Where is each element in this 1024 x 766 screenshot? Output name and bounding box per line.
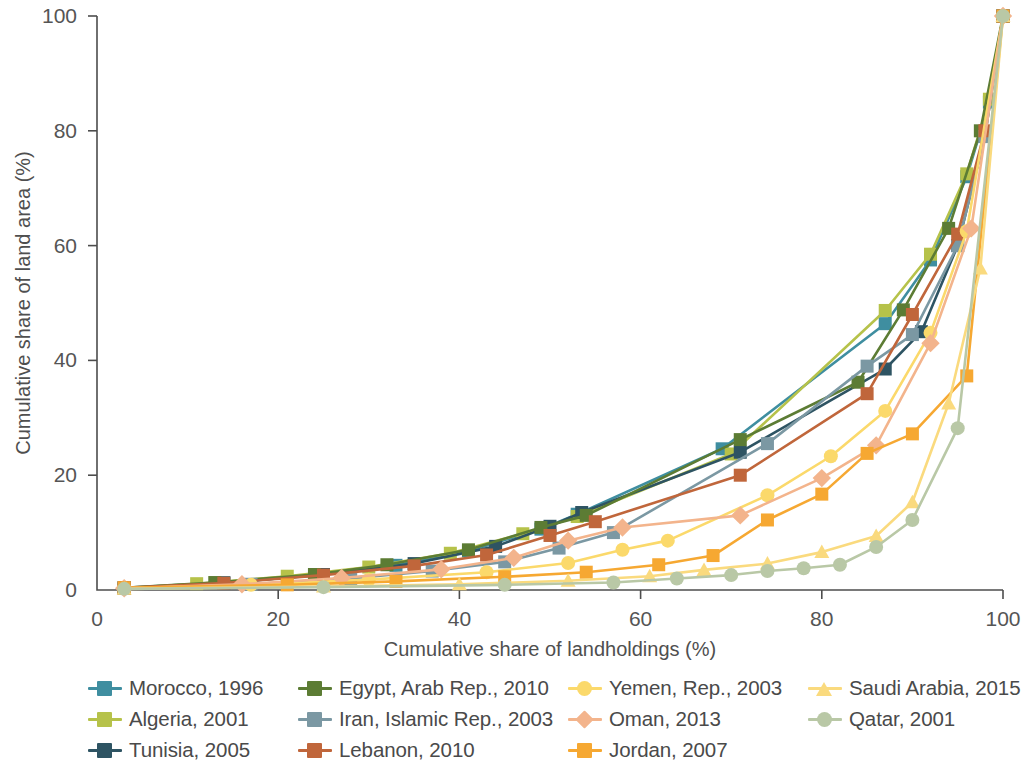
legend-swatch-square-icon <box>298 678 332 698</box>
legend-item-saudi-arabia-2015[interactable]: Saudi Arabia, 2015 <box>808 672 1008 703</box>
data-point <box>652 558 665 571</box>
data-point <box>580 566 593 579</box>
y-tick-label-100: 100 <box>42 4 77 27</box>
legend-swatch-circle-icon <box>568 678 602 698</box>
data-point <box>861 360 874 373</box>
legend-item-oman-2013[interactable]: Oman, 2013 <box>568 703 808 734</box>
series-line <box>124 16 1003 589</box>
legend-label: Oman, 2013 <box>609 707 721 731</box>
legend-label: Algeria, 2001 <box>129 707 249 731</box>
data-point <box>544 529 557 542</box>
y-tick-label-60: 60 <box>54 234 77 257</box>
legend-item-iran-islamic-rep-2003[interactable]: Iran, Islamic Rep., 2003 <box>298 703 568 734</box>
x-tick-label-60: 60 <box>629 607 652 630</box>
data-point <box>731 506 749 524</box>
series-egypt-arab-rep-2010 <box>118 10 1010 595</box>
legend-label: Tunisia, 2005 <box>129 738 250 762</box>
legend-label: Qatar, 2001 <box>849 707 955 731</box>
series-yemen-rep-2003 <box>117 9 1010 595</box>
series-layer <box>115 7 1012 598</box>
legend-swatch-square-icon <box>298 709 332 729</box>
legend-item-jordan-2007[interactable]: Jordan, 2007 <box>568 734 808 765</box>
data-point <box>734 433 747 446</box>
series-line <box>124 16 1003 588</box>
legend-marker-triangle-icon <box>816 682 832 696</box>
data-point <box>761 437 774 450</box>
legend-marker-square-icon <box>577 743 592 758</box>
data-point <box>606 576 620 590</box>
data-point <box>462 543 475 556</box>
data-point <box>905 495 920 509</box>
data-point <box>861 387 874 400</box>
legend-swatch-diamond-icon <box>568 709 602 729</box>
data-point <box>670 572 684 586</box>
x-tick-label-40: 40 <box>448 607 471 630</box>
legend-item-algeria-2001[interactable]: Algeria, 2001 <box>88 703 298 734</box>
legend-item-yemen-rep-2003[interactable]: Yemen, Rep., 2003 <box>568 672 808 703</box>
data-point <box>589 515 602 528</box>
data-point <box>996 9 1010 23</box>
data-point <box>761 513 774 526</box>
data-point <box>498 578 512 592</box>
legend-label: Egypt, Arab Rep., 2010 <box>339 676 549 700</box>
legend-item-qatar-2001[interactable]: Qatar, 2001 <box>808 703 1008 734</box>
data-point <box>905 513 919 527</box>
data-point <box>281 578 294 591</box>
data-point <box>317 580 331 594</box>
data-point <box>724 568 738 582</box>
legend-marker-square-icon <box>97 681 112 696</box>
legend-swatch-square-icon <box>568 740 602 760</box>
series-line <box>124 16 1003 588</box>
series-line <box>124 16 1003 588</box>
x-tick-label-80: 80 <box>810 607 833 630</box>
series-line <box>124 16 1003 589</box>
y-tick-label-20: 20 <box>54 463 77 486</box>
legend-swatch-triangle-icon <box>808 678 842 698</box>
series-oman-2013 <box>115 7 1012 598</box>
data-point <box>815 488 828 501</box>
series-algeria-2001 <box>118 10 1010 595</box>
legend-item-lebanon-2010[interactable]: Lebanon, 2010 <box>298 734 568 765</box>
series-line <box>124 16 1003 588</box>
y-axis-title: Cumulative share of land area (%) <box>12 151 34 454</box>
series-line <box>124 16 1003 588</box>
data-point <box>833 558 847 572</box>
x-tick-label-20: 20 <box>267 607 290 630</box>
legend-label: Lebanon, 2010 <box>339 738 475 762</box>
data-point <box>734 469 747 482</box>
data-point <box>797 561 811 575</box>
legend-marker-square-icon <box>97 743 112 758</box>
series-line <box>124 16 1003 588</box>
data-point <box>661 534 675 548</box>
legend-label: Iran, Islamic Rep., 2003 <box>339 707 553 731</box>
lorenz-curve-chart: 020406080100020406080100 Cumulative shar… <box>0 0 1024 766</box>
legend-marker-diamond-icon <box>575 710 593 728</box>
x-axis-title: Cumulative share of landholdings (%) <box>384 638 716 660</box>
axis-spine <box>97 16 1003 590</box>
legend-marker-square-icon <box>307 681 322 696</box>
legend-marker-square-icon <box>307 712 322 727</box>
legend-marker-square-icon <box>307 743 322 758</box>
data-point <box>879 304 892 317</box>
series-line <box>124 16 1003 588</box>
legend-item-morocco-1996[interactable]: Morocco, 1996 <box>88 672 298 703</box>
series-line <box>124 16 1003 588</box>
y-tick-label-40: 40 <box>54 348 77 371</box>
legend-item-tunisia-2005[interactable]: Tunisia, 2005 <box>88 734 298 765</box>
legend-label: Morocco, 1996 <box>129 676 263 700</box>
series-tunisia-2005 <box>118 10 1010 595</box>
y-tick-label-0: 0 <box>65 578 77 601</box>
legend-marker-circle-icon <box>817 712 832 727</box>
series-morocco-1996 <box>118 10 1010 595</box>
series-jordan-2007 <box>118 10 1010 595</box>
series-lebanon-2010 <box>118 10 1010 595</box>
legend-marker-square-icon <box>97 712 112 727</box>
legend-item-egypt-arab-rep-2010[interactable]: Egypt, Arab Rep., 2010 <box>298 672 568 703</box>
data-point <box>906 328 919 341</box>
series-iran-islamic-rep-2003 <box>118 10 1010 595</box>
series-qatar-2001 <box>117 9 1010 596</box>
data-point <box>906 308 919 321</box>
data-point <box>615 543 629 557</box>
data-point <box>707 549 720 562</box>
legend-label: Saudi Arabia, 2015 <box>849 676 1020 700</box>
